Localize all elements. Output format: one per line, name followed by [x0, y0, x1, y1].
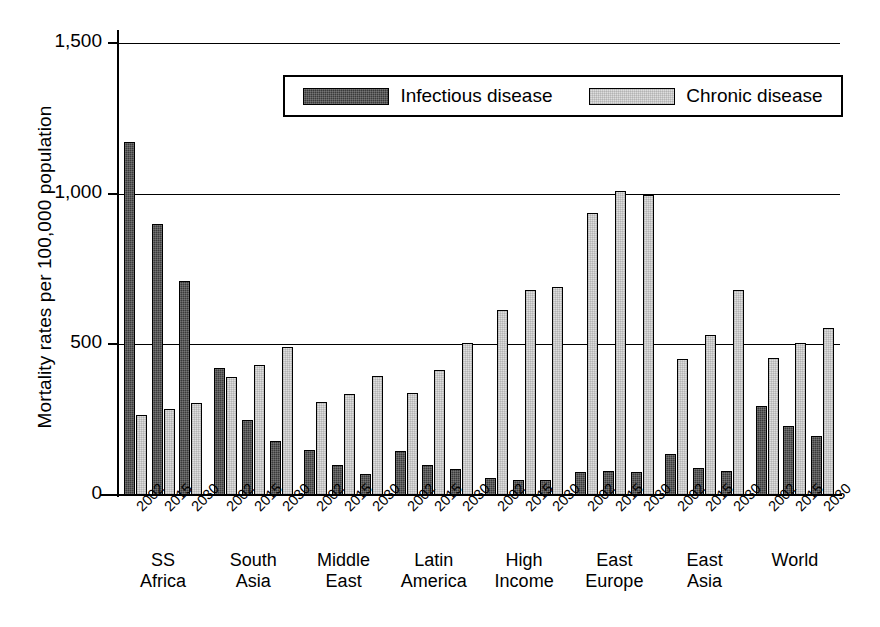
legend-swatch-chronic-icon: [589, 88, 675, 105]
group-label-line-2: Asia: [660, 571, 750, 592]
group-label-line-2: Asia: [208, 571, 298, 592]
y-axis-tick-label: 1,500: [10, 30, 102, 52]
group-label-line-1: East: [660, 550, 750, 571]
bar-chronic: [552, 287, 563, 495]
group-label-line-1: High: [479, 550, 569, 571]
y-axis-tick-label: 1,000: [10, 181, 102, 203]
x-axis-group-label: EastEurope: [569, 550, 659, 592]
bar-chronic: [191, 403, 202, 495]
group-label-line-2: Europe: [569, 571, 659, 592]
bar-chronic: [226, 377, 237, 495]
y-axis-tick: [108, 42, 118, 44]
y-axis-tick-label: 500: [10, 331, 102, 353]
bar-infectious: [124, 142, 135, 495]
x-axis-group-label: EastAsia: [660, 550, 750, 592]
bar-chronic: [254, 365, 265, 495]
bar-infectious: [214, 368, 225, 495]
bar-chronic: [344, 394, 355, 495]
x-axis-group-label: MiddleEast: [299, 550, 389, 592]
legend-swatch-infectious-icon: [303, 88, 389, 105]
bar-infectious: [179, 281, 190, 495]
bar-chronic: [282, 347, 293, 495]
bar-chronic: [615, 191, 626, 495]
x-axis-group-label: World: [750, 550, 840, 571]
x-axis-group-label: HighIncome: [479, 550, 569, 592]
bar-chronic: [434, 370, 445, 495]
bar-chronic: [768, 358, 779, 495]
bar-chronic: [497, 310, 508, 495]
legend-item-infectious: Infectious disease: [303, 85, 552, 107]
bar-chronic: [407, 393, 418, 495]
group-label-line-1: East: [569, 550, 659, 571]
legend-label-chronic: Chronic disease: [686, 85, 822, 107]
chart-legend: Infectious disease Chronic disease: [283, 75, 843, 117]
bar-infectious: [756, 406, 767, 495]
y-axis-title: Mortality rates per 100,000 population: [34, 32, 62, 502]
y-axis-tick: [108, 343, 118, 345]
group-label-line-2: Africa: [118, 571, 208, 592]
bar-chronic: [316, 402, 327, 495]
group-label-line-1: Latin: [389, 550, 479, 571]
x-axis-group-label: SouthAsia: [208, 550, 298, 592]
bar-infectious: [152, 224, 163, 495]
bar-chronic: [677, 359, 688, 495]
bar-chronic: [462, 343, 473, 495]
chart-figure: Mortality rates per 100,000 population 0…: [0, 0, 880, 627]
group-label-line-2: Income: [479, 571, 569, 592]
bar-chronic: [733, 290, 744, 495]
legend-label-infectious: Infectious disease: [400, 85, 552, 107]
bar-chronic: [372, 376, 383, 495]
group-label-line-1: SS: [118, 550, 208, 571]
bar-chronic: [587, 213, 598, 495]
x-axis-group-label: LatinAmerica: [389, 550, 479, 592]
y-axis-tick: [108, 494, 118, 496]
bar-chronic: [823, 328, 834, 495]
bar-chronic: [705, 335, 716, 495]
group-label-line-2: East: [299, 571, 389, 592]
bar-chronic: [643, 195, 654, 495]
bar-chronic: [136, 415, 147, 495]
legend-item-chronic: Chronic disease: [589, 85, 822, 107]
group-label-line-2: America: [389, 571, 479, 592]
bar-chronic: [795, 343, 806, 495]
y-axis-tick-label: 0: [10, 482, 102, 504]
group-label-line-1: World: [750, 550, 840, 571]
bar-chronic: [164, 409, 175, 495]
group-label-line-1: South: [208, 550, 298, 571]
x-axis-group-label: SSAfrica: [118, 550, 208, 592]
group-label-line-1: Middle: [299, 550, 389, 571]
y-axis-tick: [108, 193, 118, 195]
bar-chronic: [525, 290, 536, 495]
